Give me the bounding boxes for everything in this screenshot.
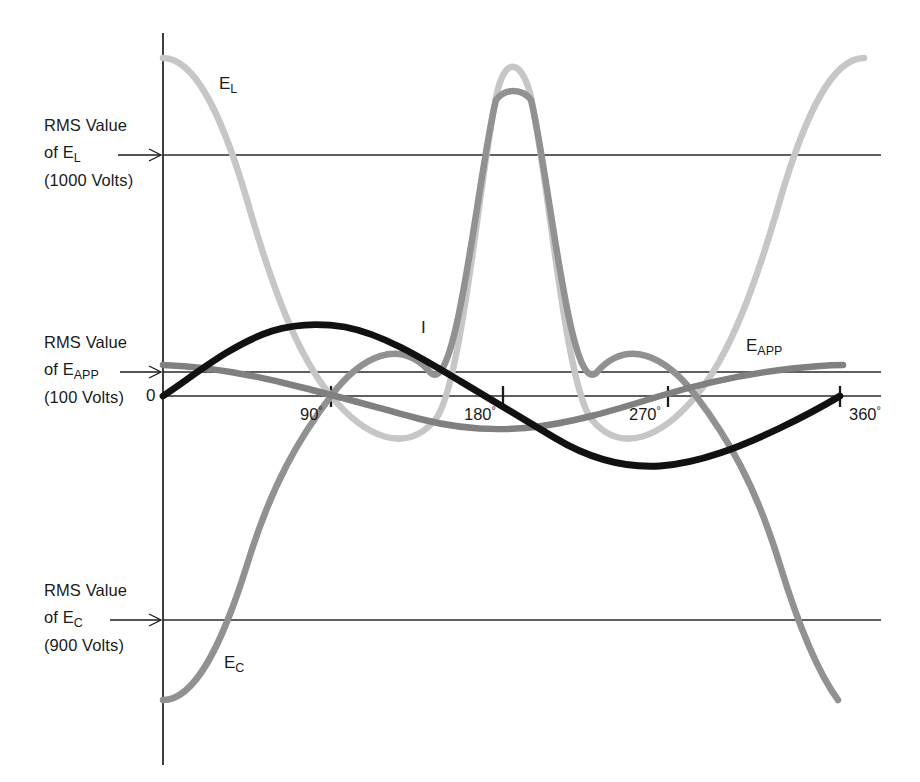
axis-tick-label-360: 360°	[849, 404, 881, 424]
annotation-rms-el-prefix: of E	[44, 143, 74, 161]
annotation-rms-eapp-line2: of EAPP	[44, 356, 127, 385]
annotation-rms-ec-prefix: of E	[44, 608, 74, 626]
axis-tick-degree-90: °	[318, 404, 322, 416]
axis-tick-value-360: 360	[849, 405, 877, 423]
annotation-rms-eapp-prefix: of E	[44, 360, 74, 378]
annotation-rms-ec: RMS Value of EC (900 Volts)	[44, 577, 127, 659]
annotation-rms-ec-line3: (900 Volts)	[44, 632, 127, 659]
annotation-rms-el-line3: (1000 Volts)	[44, 167, 133, 194]
axis-tick-label-180: 180°	[464, 404, 496, 424]
curve-label-ec-sub: C	[235, 661, 244, 675]
annotation-rms-eapp-line1: RMS Value	[44, 329, 127, 356]
axis-tick-degree-270: °	[657, 404, 661, 416]
axis-tick-value-270: 270	[629, 405, 657, 423]
axis-tick-degree-360: °	[877, 404, 881, 416]
curve-label-ec-base: E	[224, 653, 235, 672]
waveform-plot	[0, 0, 920, 782]
curve-label-eapp-sub: APP	[757, 344, 782, 358]
curve-label-ec: EC	[224, 653, 244, 675]
curve-label-eapp: EAPP	[746, 336, 782, 358]
annotation-rms-ec-line2: of EC	[44, 604, 127, 633]
annotation-rms-el-line2: of EL	[44, 139, 133, 168]
axis-tick-degree-180: °	[492, 404, 496, 416]
axis-tick-value-180: 180	[464, 405, 492, 423]
curve-label-i: I	[421, 318, 426, 338]
annotation-rms-eapp-line3: (100 Volts)	[44, 384, 127, 411]
annotation-rms-ec-subscript: C	[74, 615, 83, 629]
axis-tick-label-270: 270°	[629, 404, 661, 424]
waveform-figure: RMS Value of EL (1000 Volts) RMS Value o…	[0, 0, 920, 782]
origin-label: 0	[146, 386, 155, 406]
axis-tick-value-90: 90	[300, 405, 318, 423]
annotation-rms-el-line1: RMS Value	[44, 112, 133, 139]
curve-label-el-sub: L	[230, 82, 237, 96]
curve-label-eapp-base: E	[746, 336, 757, 355]
curve-label-el: EL	[219, 74, 237, 96]
annotation-rms-eapp-subscript: APP	[74, 367, 99, 381]
annotation-rms-el: RMS Value of EL (1000 Volts)	[44, 112, 133, 194]
axis-tick-label-90: 90°	[300, 404, 323, 424]
curve-label-el-base: E	[219, 74, 230, 93]
curve-label-i-base: I	[421, 318, 426, 337]
annotation-rms-eapp: RMS Value of EAPP (100 Volts)	[44, 329, 127, 411]
annotation-rms-el-subscript: L	[74, 150, 81, 164]
annotation-rms-ec-line1: RMS Value	[44, 577, 127, 604]
